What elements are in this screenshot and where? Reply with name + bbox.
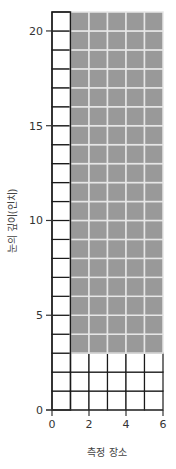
shaded-block-cell — [89, 183, 108, 202]
shaded-block-cell — [108, 69, 127, 88]
shaded-block-cell — [71, 296, 90, 315]
y-tick-label: 0 — [36, 404, 43, 417]
unshaded-column-cell — [52, 107, 71, 126]
unshaded-column-cell — [52, 69, 71, 88]
shaded-block-cell — [108, 145, 127, 164]
shaded-block-cell — [108, 239, 127, 258]
shaded-block-cell — [108, 183, 127, 202]
unshaded-column-cell — [52, 126, 71, 145]
unshaded-base-cell — [108, 391, 127, 410]
shaded-block-cell — [71, 107, 90, 126]
shaded-block-cell — [71, 126, 90, 145]
shaded-block-cell — [145, 202, 164, 221]
shaded-block-cell — [126, 50, 145, 69]
unshaded-base-cell — [89, 372, 108, 391]
shaded-block-cell — [108, 126, 127, 145]
shaded-block-cell — [71, 239, 90, 258]
shaded-block-cell — [89, 88, 108, 107]
unshaded-base-cell — [89, 353, 108, 372]
unshaded-column-cell — [52, 220, 71, 239]
shaded-block-cell — [145, 126, 164, 145]
unshaded-base-cell — [126, 353, 145, 372]
unshaded-base-cell — [145, 372, 164, 391]
shaded-block-cell — [89, 202, 108, 221]
unshaded-column-cell — [52, 31, 71, 50]
shaded-block-cell — [108, 107, 127, 126]
shaded-block-cell — [89, 126, 108, 145]
unshaded-base-cell — [71, 353, 90, 372]
unshaded-column-cell — [52, 353, 71, 372]
shaded-block-cell — [145, 164, 164, 183]
y-axis: 05101520 — [29, 25, 53, 417]
shaded-block-cell — [71, 164, 90, 183]
shaded-block-cell — [126, 69, 145, 88]
shaded-block-cell — [145, 334, 164, 353]
unshaded-column-cell — [52, 296, 71, 315]
shaded-block-cell — [145, 50, 164, 69]
shaded-block-cell — [126, 277, 145, 296]
shaded-block-cell — [89, 296, 108, 315]
unshaded-column-cell — [52, 372, 71, 391]
y-tick-label: 20 — [29, 25, 43, 38]
unshaded-column-cell — [52, 315, 71, 334]
shaded-block-cell — [71, 277, 90, 296]
shaded-block-cell — [89, 50, 108, 69]
shaded-block-cell — [145, 88, 164, 107]
shaded-block-cell — [71, 145, 90, 164]
x-axis-title: 측정 장소 — [87, 447, 126, 458]
unshaded-column-cell — [52, 239, 71, 258]
unshaded-base-cell — [71, 391, 90, 410]
y-tick-label: 10 — [29, 214, 43, 227]
shaded-block-cell — [71, 202, 90, 221]
shaded-block-cell — [145, 145, 164, 164]
shaded-block-cell — [71, 69, 90, 88]
shaded-block-cell — [108, 258, 127, 277]
x-tick-label: 4 — [123, 418, 130, 431]
shaded-block-cell — [126, 145, 145, 164]
unshaded-base-cell — [126, 372, 145, 391]
shaded-block-cell — [145, 239, 164, 258]
shaded-block-cell — [145, 258, 164, 277]
unshaded-column-cell — [52, 145, 71, 164]
unshaded-column-cell — [52, 183, 71, 202]
shaded-block-cell — [126, 296, 145, 315]
unshaded-column-cell — [52, 88, 71, 107]
shaded-block-cell — [71, 12, 90, 31]
unshaded-base-cell — [71, 372, 90, 391]
shaded-block-cell — [89, 12, 108, 31]
shaded-block-cell — [89, 334, 108, 353]
x-tick-label: 6 — [160, 418, 167, 431]
shaded-block-cell — [145, 12, 164, 31]
shaded-block-cell — [145, 69, 164, 88]
shaded-block-cell — [89, 145, 108, 164]
shaded-block-cell — [126, 239, 145, 258]
shaded-block-cell — [71, 50, 90, 69]
shaded-block-cell — [145, 31, 164, 50]
unshaded-base-cell — [126, 391, 145, 410]
shaded-block-cell — [71, 334, 90, 353]
shaded-block-cell — [126, 31, 145, 50]
shaded-block-cell — [126, 183, 145, 202]
shaded-block-cell — [145, 107, 164, 126]
shaded-block-cell — [71, 31, 90, 50]
shaded-block-cell — [108, 31, 127, 50]
shaded-block-cell — [89, 239, 108, 258]
shaded-block-cell — [126, 126, 145, 145]
shaded-block-cell — [108, 334, 127, 353]
shaded-block-cell — [108, 315, 127, 334]
shaded-block-cell — [71, 183, 90, 202]
unshaded-column-cell — [52, 258, 71, 277]
unshaded-column-cell — [52, 391, 71, 410]
shaded-block-cell — [126, 220, 145, 239]
x-tick-label: 2 — [86, 418, 93, 431]
unshaded-column-cell — [52, 334, 71, 353]
x-tick-label: 0 — [49, 418, 56, 431]
unshaded-column-cell — [52, 202, 71, 221]
unshaded-base-cell — [89, 391, 108, 410]
unshaded-column-cell — [52, 12, 71, 31]
shaded-block-cell — [89, 107, 108, 126]
shaded-block-cell — [108, 296, 127, 315]
shaded-block-cell — [108, 202, 127, 221]
shaded-block-cell — [126, 88, 145, 107]
shaded-block-cell — [71, 220, 90, 239]
